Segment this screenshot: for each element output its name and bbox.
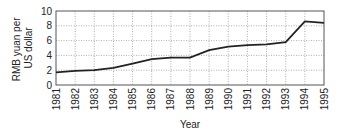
y-tick-label: 10 — [41, 6, 53, 17]
y-tick-label: 8 — [46, 20, 52, 31]
x-tick-label: 1993 — [280, 88, 291, 111]
x-tick-label: 1981 — [51, 88, 62, 111]
x-tick-label: 1986 — [146, 88, 157, 111]
x-tick-label: 1985 — [127, 88, 138, 111]
x-tick-label: 1987 — [165, 88, 176, 111]
exchange-rate-chart: 0246810 19811982198319841985198619871988… — [0, 0, 342, 133]
y-tick-label: 4 — [46, 50, 52, 61]
x-tick-label: 1995 — [319, 88, 330, 111]
x-tick-label: 1988 — [185, 88, 196, 111]
y-tick-label: 2 — [46, 65, 52, 76]
x-tick-label: 1994 — [299, 88, 310, 111]
x-tick-label: 1984 — [108, 88, 119, 111]
x-axis-label: Year — [180, 119, 201, 130]
x-tick-label: 1990 — [223, 88, 234, 111]
x-tick-label: 1982 — [70, 88, 81, 111]
x-tick-label: 1983 — [89, 88, 100, 111]
y-tick-label: 6 — [46, 35, 52, 46]
y-axis-ticks: 0246810 — [41, 6, 53, 91]
x-tick-label: 1992 — [261, 88, 272, 111]
y-axis-label: RMB yuan per US dollar — [11, 15, 34, 82]
grid-lines — [56, 11, 324, 85]
x-tick-label: 1989 — [204, 88, 215, 111]
x-axis-ticks: 1981198219831984198519861987198819891990… — [51, 88, 330, 111]
x-tick-label: 1991 — [242, 88, 253, 111]
